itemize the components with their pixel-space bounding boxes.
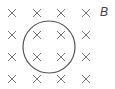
- field-cross-icon: [82, 53, 90, 61]
- field-cross-icon: [57, 31, 65, 39]
- field-cross-icon: [33, 9, 41, 17]
- field-cross-icon: [57, 75, 65, 83]
- conducting-loop: [23, 21, 75, 73]
- field-cross-icon: [8, 75, 16, 83]
- field-cross-icon: [82, 75, 90, 83]
- field-cross-icon: [82, 31, 90, 39]
- field-cross-icon: [33, 31, 41, 39]
- field-cross-icon: [8, 53, 16, 61]
- field-cross-icon: [33, 75, 41, 83]
- field-cross-icon: [57, 9, 65, 17]
- field-cross-icon: [33, 53, 41, 61]
- field-diagram: [0, 0, 115, 89]
- field-cross-icon: [8, 31, 16, 39]
- field-label: B: [100, 5, 108, 19]
- field-cross-icon: [82, 9, 90, 17]
- field-cross-icon: [8, 9, 16, 17]
- field-cross-icon: [57, 53, 65, 61]
